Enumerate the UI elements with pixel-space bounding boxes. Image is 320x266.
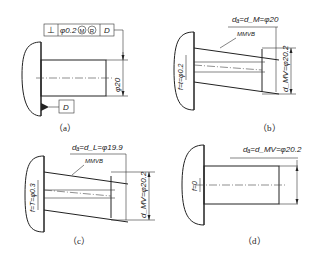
panel-c: dₐ=d_L=φ19.9 MMVB d_MV=φ20.2 f=T=φ0.3 （c… (25, 143, 155, 246)
datum-triangle-icon (41, 103, 49, 111)
mmvb-label: MMVB (85, 158, 103, 164)
mmvb-label: MMVB (237, 31, 255, 37)
top-label: dₐ=d_L=φ19.9 (72, 143, 123, 152)
panel-b: dₐ=d_M=φ20 MMVB d_MV=φ20.2 f=t=φ0.2 （b） (174, 15, 296, 133)
datum-label: D (63, 103, 69, 112)
caption-a: （a） (54, 123, 76, 133)
f-label: f=0 (191, 181, 198, 191)
feature-control-frame: ⊥ φ0.2 M R D (44, 24, 123, 60)
panel-d: dₐ=d_MV=φ20.2 f=0 （d） (182, 145, 302, 246)
perpendicularity-icon: ⊥ (47, 25, 55, 35)
fcf-tolerance: φ0.2 (60, 26, 77, 35)
svg-text:M: M (80, 28, 85, 34)
panel-a: D ⊥ φ0.2 M R D φ20 （a） (22, 24, 128, 133)
f-label: f=t=φ0.2 (177, 64, 185, 90)
top-label: dₐ=d_MV=φ20.2 (243, 145, 302, 154)
caption-c: （c） (68, 236, 90, 246)
caption-d: （d） (243, 236, 266, 246)
f-label: f=T=φ0.3 (29, 183, 37, 212)
top-label: dₐ=d_M=φ20 (232, 15, 279, 24)
caption-b: （b） (258, 123, 281, 133)
dmv-label: d_MV=φ20.2 (139, 171, 148, 218)
fcf-datum: D (104, 26, 110, 35)
rivet-head (22, 42, 41, 116)
dmv-label: d_MV=φ20.2 (281, 45, 290, 92)
diameter-label: φ20 (113, 77, 122, 92)
tolerance-diagram: D ⊥ φ0.2 M R D φ20 （a） (0, 0, 320, 266)
svg-text:R: R (90, 28, 95, 34)
